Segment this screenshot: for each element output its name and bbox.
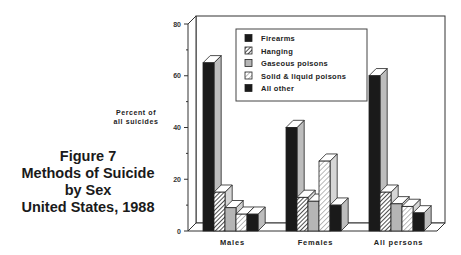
y-tick-label: 0 xyxy=(177,228,181,235)
x-category-label: Males xyxy=(220,238,245,247)
left-wall xyxy=(188,16,196,231)
legend-item: Hanging xyxy=(245,47,293,56)
y-tick-label: 40 xyxy=(173,124,181,131)
x-category-label: Females xyxy=(298,238,334,247)
legend-label: Solid & liquid poisons xyxy=(261,72,346,81)
legend-swatch xyxy=(245,35,252,42)
legend-swatch xyxy=(245,60,252,67)
legend-item: All other xyxy=(245,84,294,93)
legend-label: Firearms xyxy=(261,34,295,43)
legend-label: All other xyxy=(261,84,294,93)
legend-label: Hanging xyxy=(261,47,293,56)
legend-swatch xyxy=(245,72,252,79)
legend-swatch xyxy=(245,47,252,54)
y-tick-label: 20 xyxy=(173,176,181,183)
bar xyxy=(330,198,348,231)
y-tick-label: 80 xyxy=(173,21,181,28)
legend: FirearmsHangingGaseous poisonsSolid & li… xyxy=(236,29,367,101)
x-category-label: All persons xyxy=(374,238,424,247)
legend-item: Solid & liquid poisons xyxy=(245,72,346,81)
bar-chart: FirearmsHangingGaseous poisonsSolid & li… xyxy=(0,0,461,255)
legend-swatch xyxy=(245,85,252,92)
legend-label: Gaseous poisons xyxy=(261,59,328,68)
y-tick-label: 60 xyxy=(173,72,181,79)
